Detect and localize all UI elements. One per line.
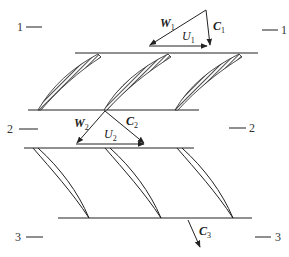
station-3-right-label: 3	[275, 230, 281, 244]
stator-blade-2	[105, 148, 161, 218]
stator-row	[24, 148, 252, 218]
mid-velocity-triangle: W2 C2 U2	[74, 111, 144, 144]
c1-vector	[206, 10, 210, 45]
w1-label: W1	[160, 16, 175, 32]
c2-label: C2	[126, 114, 138, 130]
c1-label: C1	[213, 19, 225, 35]
u2-label: U2	[104, 127, 117, 143]
station-3-left-label: 3	[15, 230, 21, 244]
rotor-blade-1	[38, 54, 101, 110]
w1-vector	[150, 10, 206, 45]
c3-label: C3	[199, 224, 211, 240]
rotor-blade-3	[175, 54, 242, 110]
station-1-left-label: 1	[17, 20, 23, 34]
rotor-row	[28, 53, 258, 110]
u1-label: U1	[182, 29, 195, 45]
exit-velocity: C3	[188, 220, 211, 247]
stator-blade-1	[33, 148, 89, 218]
rotor-blade-2	[104, 54, 171, 110]
station-2-right-label: 2	[249, 121, 255, 135]
station-1-right-label: 1	[281, 23, 287, 37]
inlet-velocity-triangle: W1 C1 U1	[149, 10, 225, 46]
station-markers-left: 1 2 3	[7, 20, 43, 244]
turbine-stage-diagram: 1 2 3 1 2 3 W1 C1 U1 W2 C2 U2	[0, 0, 289, 257]
w2-label: W2	[74, 116, 89, 132]
stator-blade-3	[177, 148, 233, 218]
station-2-left-label: 2	[7, 122, 13, 136]
